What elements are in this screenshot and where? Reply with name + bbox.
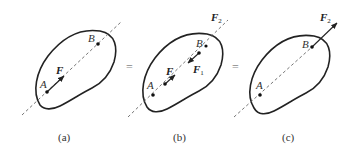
caption-b: (b) (173, 131, 186, 144)
transmissibility-diagram: A B F (a) = A B F F1 F2 (b) = A B F2 (c) (0, 0, 351, 152)
point-A-label: A (255, 79, 263, 91)
line-of-action (234, 47, 312, 117)
point-A-label: A (146, 79, 154, 91)
rigid-body-outline (143, 33, 223, 111)
force-F2-label: F2 (210, 11, 222, 25)
rigid-body-outline (36, 30, 116, 108)
panel-c: A B F2 (c) (234, 11, 337, 144)
force-F-label: F (165, 65, 174, 77)
force-F2-arrow (312, 23, 337, 47)
equals-sign-1: = (126, 60, 133, 74)
caption-a: (a) (58, 131, 71, 144)
point-B-label: B (88, 32, 95, 44)
equals-sign-2: = (232, 60, 239, 74)
point-B-label: B (302, 38, 309, 50)
point-B-dot (197, 51, 201, 55)
force-F2-subscript: 2 (218, 17, 222, 25)
point-B-dot (96, 42, 100, 46)
force-F2-subscript: 2 (327, 17, 331, 25)
rigid-body-outline (250, 35, 330, 113)
point-A-dot (151, 93, 155, 97)
force-F-arrow (47, 76, 64, 92)
point-A-label: A (39, 78, 47, 90)
panel-b: A B F F1 F2 (b) (128, 11, 228, 144)
force-F1-label: F1 (192, 63, 204, 77)
point-A-dot (45, 90, 49, 94)
panel-a: A B F (a) (22, 22, 121, 144)
caption-c: (c) (282, 131, 295, 144)
point-A-dot (258, 93, 262, 97)
point-B-label: B (196, 37, 203, 49)
point-B2-dot (204, 44, 207, 47)
force-F1-subscript: 1 (200, 69, 204, 77)
point-B-dot (310, 45, 314, 49)
force-F2-label: F2 (319, 11, 331, 25)
force-F1-arrow (188, 53, 199, 63)
force-F-label: F (55, 64, 64, 76)
point-intermediate-dot (163, 82, 167, 86)
